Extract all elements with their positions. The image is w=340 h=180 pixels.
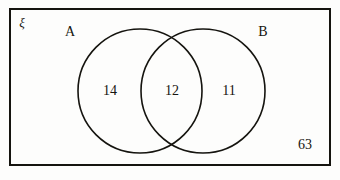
set-b-circle [141, 29, 265, 153]
set-a-label: A [65, 25, 75, 39]
venn-diagram-figure: ξ A B 14 12 11 63 [0, 0, 340, 180]
region-value-intersection: 12 [165, 84, 179, 98]
universal-set-label: ξ [19, 16, 25, 29]
set-a-circle [78, 29, 202, 153]
region-value-outside: 63 [298, 138, 312, 152]
region-value-a-only: 14 [103, 84, 117, 98]
set-b-label: B [258, 25, 267, 39]
region-value-b-only: 11 [222, 84, 235, 98]
